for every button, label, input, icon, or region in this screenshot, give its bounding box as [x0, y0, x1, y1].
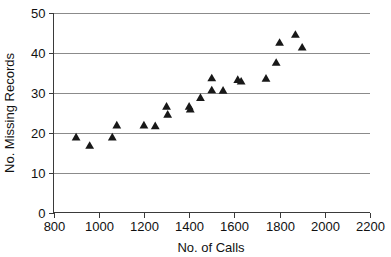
y-tick-label: 20 — [31, 126, 45, 141]
gridlines-group — [54, 14, 371, 174]
x-axis-title: No. of Calls — [177, 240, 245, 255]
y-tick-label: 0 — [38, 206, 45, 221]
data-point-marker — [262, 74, 271, 82]
data-point-marker — [298, 43, 307, 51]
x-tick-label: 1600 — [220, 219, 249, 234]
y-tick-marks-group — [49, 14, 54, 214]
data-point-marker — [272, 58, 281, 66]
data-point-marker — [219, 86, 228, 94]
x-tick-label: 1200 — [130, 219, 159, 234]
x-tick-label: 1400 — [175, 219, 204, 234]
data-point-marker — [291, 30, 300, 38]
data-point-marker — [151, 122, 160, 130]
x-tick-label: 2200 — [356, 219, 385, 234]
data-point-marker — [207, 74, 216, 82]
y-tick-label: 40 — [31, 46, 45, 61]
chart-canvas: 8001000120014001600180020002200 01020304… — [0, 0, 391, 257]
data-point-marker — [108, 133, 117, 141]
scatter-chart-figure: 8001000120014001600180020002200 01020304… — [0, 0, 391, 257]
data-point-marker — [196, 93, 205, 101]
x-tick-label: 1800 — [266, 219, 295, 234]
y-tick-label: 30 — [31, 86, 45, 101]
y-tick-label: 50 — [31, 6, 45, 21]
y-tick-labels-group: 01020304050 — [31, 6, 45, 221]
x-tick-label: 2000 — [311, 219, 340, 234]
y-tick-label: 10 — [31, 166, 45, 181]
data-point-marker — [275, 38, 284, 46]
y-axis-title: No. Missing Records — [2, 53, 17, 173]
data-point-marker — [163, 110, 172, 118]
data-point-marker — [207, 86, 216, 94]
x-tick-label: 800 — [44, 219, 66, 234]
data-point-marker — [85, 141, 94, 149]
x-tick-labels-group: 8001000120014001600180020002200 — [44, 219, 385, 234]
x-tick-marks-group — [55, 213, 371, 218]
data-point-marker — [140, 121, 149, 129]
x-tick-label: 1000 — [85, 219, 114, 234]
data-point-marker — [112, 121, 121, 129]
data-point-marker — [162, 102, 171, 110]
data-points-group — [72, 30, 307, 149]
data-point-marker — [72, 133, 81, 141]
